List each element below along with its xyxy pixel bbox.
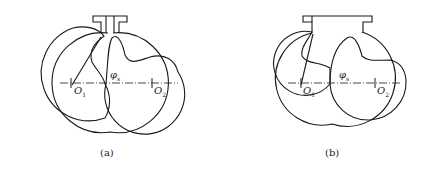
angle-phi-s-label: φs (339, 70, 349, 84)
figure-caption-b: (b) (325, 147, 339, 158)
center-o2-label: O2 (377, 86, 389, 100)
twin-rotor-diagram-a (0, 0, 221, 171)
twin-rotor-diagram-b (222, 0, 443, 171)
figure-caption-a: (a) (100, 147, 114, 158)
figure-b: O1 O2 φs (b) (222, 0, 443, 171)
center-o2-label: O2 (154, 86, 166, 100)
center-o1-label: O1 (74, 86, 86, 100)
angle-phi-s-label: φs (110, 70, 120, 84)
center-o1-label: O1 (303, 86, 315, 100)
figure-a: O1 O2 φs (a) (0, 0, 221, 171)
